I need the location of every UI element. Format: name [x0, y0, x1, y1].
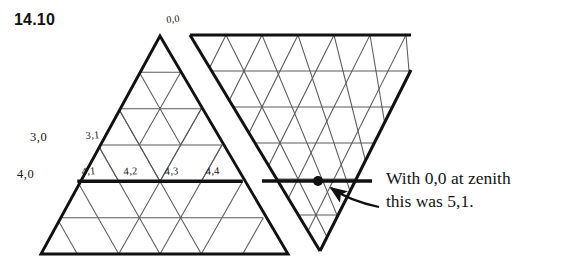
label-4-4: 4,4	[205, 165, 220, 177]
label-4-0: 4,0	[17, 167, 34, 182]
label-zenith-0-0: 0,0	[166, 13, 180, 25]
right-triangle-group	[118, 35, 442, 251]
caption-arrow	[331, 188, 379, 207]
figure-caption: With 0,0 at zenith this was 5,1.	[386, 167, 576, 213]
label-4-1: 4,1	[81, 165, 96, 177]
label-4-3: 4,3	[164, 165, 179, 177]
label-4-2: 4,2	[123, 165, 138, 177]
figure-canvas: 14.10 0,0 3,0 3,1 4,0 4,1 4,2 4,3 4,4 Wi…	[0, 0, 579, 268]
right-triangle-inner-grid	[118, 35, 442, 251]
marked-vertex[interactable]	[313, 176, 323, 186]
left-triangle-inner-grid	[57, 72, 264, 254]
label-3-0: 3,0	[30, 130, 47, 145]
caption-line-1: With 0,0 at zenith	[386, 167, 576, 190]
caption-line-2: this was 5,1.	[386, 190, 576, 213]
label-3-1: 3,1	[85, 129, 100, 141]
figure-number: 14.10	[14, 11, 55, 29]
right-triangle-right-edge	[320, 70, 411, 251]
left-triangle-group	[41, 36, 288, 254]
